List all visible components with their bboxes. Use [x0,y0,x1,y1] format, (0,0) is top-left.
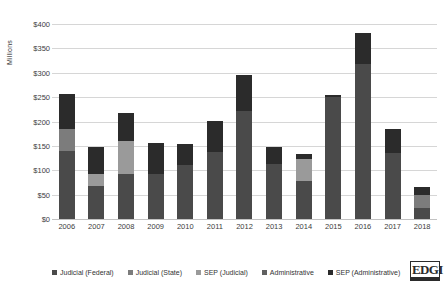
legend-label: SEP (Judicial) [204,269,248,276]
bar-segment [414,195,430,209]
legend-item[interactable]: Judicial (State) [128,269,182,276]
bar-slot [170,24,200,219]
bar-segment [236,111,252,219]
x-axis-tick-labels: 2006200720082009201020112012201320142015… [52,222,437,236]
bar-slot [230,24,260,219]
bar-segment [59,151,75,219]
chart-page: Millions $400$350$300$250$200$150$100$50… [0,0,447,289]
bar-slot [378,24,408,219]
bar-stack[interactable] [118,113,134,219]
bar-segment [88,174,104,186]
y-axis-tick-label: $50 [4,190,50,199]
bar-segment [325,97,341,219]
legend-swatch-icon [128,270,133,275]
legend-item[interactable]: SEP (Administrative) [328,269,400,276]
x-axis-tick-label: 2016 [355,222,372,231]
bar-slot [141,24,171,219]
legend-swatch-icon [52,270,57,275]
bar-segment [296,181,312,219]
legend-label: Judicial (State) [136,269,182,276]
bar-stack[interactable] [59,94,75,219]
bar-segment [355,64,371,219]
bar-stack[interactable] [385,129,401,219]
bar-segment [59,94,75,129]
x-axis-tick-label: 2009 [147,222,164,231]
chart-legend: Judicial (Federal)Judicial (State)SEP (J… [52,265,397,279]
legend-label: Administrative [270,269,314,276]
bar-stack[interactable] [325,95,341,219]
y-axis-tick-label: $150 [4,141,50,150]
bar-segment [385,153,401,219]
bar-segment [88,186,104,219]
x-axis-tick-label: 2008 [118,222,135,231]
bar-segment [207,121,223,152]
bar-segment [177,165,193,219]
y-axis-tick-labels: $400$350$300$250$200$150$100$50$0 [0,24,50,219]
legend-label: SEP (Administrative) [336,269,400,276]
y-axis-tick-label: $200 [4,117,50,126]
bar-segment [177,144,193,165]
legend-item[interactable]: Judicial (Federal) [52,269,114,276]
legend-item[interactable]: Administrative [262,269,314,276]
bar-slot [259,24,289,219]
edgi-logo-text: EDGI [410,261,440,277]
bar-stack[interactable] [355,33,371,219]
bar-segment [385,129,401,153]
bar-stack[interactable] [148,143,164,219]
y-axis-tick-label: $250 [4,93,50,102]
bar-segment [59,129,75,151]
legend-swatch-icon [262,270,267,275]
bar-series-layer [52,24,437,219]
x-axis-tick-label: 2012 [236,222,253,231]
x-axis-tick-label: 2011 [207,222,223,231]
bar-slot [82,24,112,219]
gridline [52,219,437,220]
x-axis-tick-label: 2013 [266,222,283,231]
bar-segment [148,143,164,174]
y-axis-tick-label: $400 [4,20,50,29]
bar-segment [414,208,430,219]
legend-label: Judicial (Federal) [60,269,114,276]
x-axis-tick-label: 2014 [295,222,312,231]
bar-slot [289,24,319,219]
x-axis-tick-label: 2015 [325,222,342,231]
bar-segment [355,33,371,65]
legend-swatch-icon [328,270,333,275]
bar-stack[interactable] [207,121,223,219]
bar-segment [266,164,282,219]
bar-stack[interactable] [414,187,430,219]
x-axis-tick-label: 2018 [414,222,431,231]
edgi-logo: EDGI [410,261,440,283]
bar-slot [200,24,230,219]
bar-segment [414,187,430,194]
bar-stack[interactable] [88,147,104,219]
x-axis-tick-label: 2006 [58,222,75,231]
bar-segment [148,174,164,219]
y-axis-tick-label: $100 [4,166,50,175]
bar-segment [296,159,312,181]
edgi-logo-bar [410,277,440,281]
bar-slot [348,24,378,219]
bar-slot [407,24,437,219]
y-axis-tick-label: $350 [4,44,50,53]
bar-segment [88,147,104,173]
bar-segment [118,141,134,174]
bar-stack[interactable] [177,144,193,219]
bar-segment [207,152,223,219]
bar-slot [111,24,141,219]
bar-segment [266,147,282,165]
bar-stack[interactable] [266,147,282,219]
bar-stack[interactable] [296,154,312,219]
x-axis-tick-label: 2010 [177,222,194,231]
bar-segment [236,75,252,111]
legend-item[interactable]: SEP (Judicial) [196,269,248,276]
bar-segment [118,113,134,141]
bar-segment [118,174,134,219]
x-axis-tick-label: 2017 [384,222,401,231]
y-axis-tick-label: $0 [4,215,50,224]
bar-stack[interactable] [236,75,252,219]
legend-swatch-icon [196,270,201,275]
bar-slot [319,24,349,219]
y-axis-tick-label: $300 [4,68,50,77]
bar-slot [52,24,82,219]
